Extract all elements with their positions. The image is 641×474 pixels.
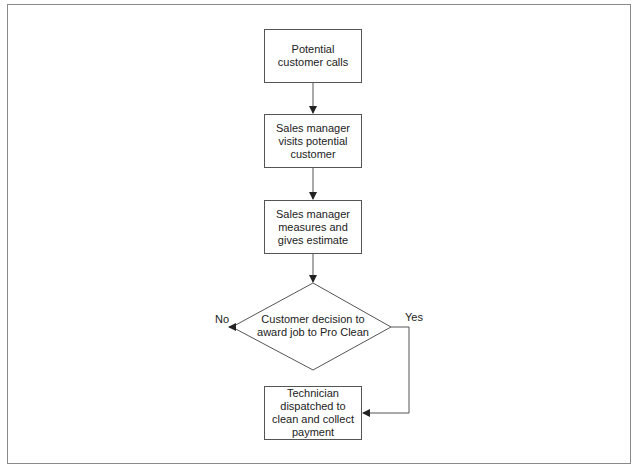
node-label: Sales manager measures and gives estimat… [269, 208, 357, 247]
node-potential-customer-calls: Potential customer calls [264, 29, 362, 83]
node-label: Customer decision to award job to Pro Cl… [248, 313, 378, 339]
node-sales-manager-estimate: Sales manager measures and gives estimat… [264, 200, 362, 254]
node-technician-dispatched: Technician dispatched to clean and colle… [264, 386, 362, 440]
edge-label-yes: Yes [405, 311, 423, 324]
node-label: Potential customer calls [269, 43, 357, 69]
node-label: Technician dispatched to clean and colle… [269, 387, 357, 439]
node-label: Sales manager visits potential customer [269, 122, 357, 161]
edge-label-no: No [215, 313, 229, 326]
node-sales-manager-visits: Sales manager visits potential customer [264, 114, 362, 168]
decision-label: Customer decision to award job to Pro Cl… [248, 310, 378, 342]
